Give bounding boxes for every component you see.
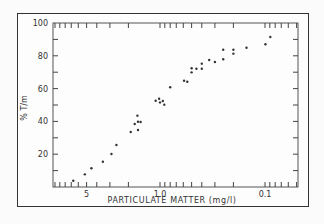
- data-point: [201, 68, 203, 70]
- data-point: [110, 153, 112, 155]
- data-point: [245, 47, 247, 49]
- y-axis-label: % T/m: [20, 95, 29, 121]
- data-point: [137, 121, 139, 123]
- data-point: [186, 81, 188, 83]
- data-point: [169, 86, 171, 88]
- data-point: [136, 114, 138, 116]
- data-point: [208, 59, 210, 61]
- data-point: [159, 101, 161, 103]
- data-point: [154, 100, 156, 102]
- data-point: [190, 71, 192, 73]
- data-point: [158, 98, 160, 100]
- y-tick-label: 20: [38, 150, 48, 159]
- data-point: [264, 43, 266, 45]
- plot-area: [53, 23, 298, 187]
- y-tick-label: 40: [38, 117, 48, 126]
- data-point: [232, 52, 234, 54]
- data-point: [195, 68, 197, 70]
- data-point: [222, 58, 224, 60]
- y-tick-label: 80: [38, 52, 48, 61]
- data-point: [269, 36, 271, 38]
- y-tick-label: 60: [38, 85, 48, 94]
- data-point: [130, 131, 132, 133]
- data-point: [90, 167, 92, 169]
- data-points: [72, 36, 271, 182]
- data-point: [72, 180, 74, 182]
- data-point: [84, 173, 86, 175]
- data-point: [139, 121, 141, 123]
- data-point: [190, 67, 192, 69]
- data-point: [183, 80, 185, 82]
- data-point: [163, 103, 165, 105]
- data-point: [102, 161, 104, 163]
- x-tick-label: 0.1: [259, 190, 272, 199]
- x-tick-label: 5: [84, 190, 89, 199]
- x-axis-label: PARTICULATE MATTER (mg/l): [108, 196, 237, 205]
- data-point: [232, 49, 234, 51]
- data-point: [201, 62, 203, 64]
- data-point: [222, 49, 224, 51]
- data-point: [162, 100, 164, 102]
- y-tick-label: 100: [33, 19, 48, 28]
- scatter-chart: 20406080100 51.00.1 % T/m PARTICULATE MA…: [0, 0, 324, 224]
- data-point: [134, 123, 136, 125]
- data-point: [137, 129, 139, 131]
- data-point: [214, 61, 216, 63]
- x-axis: 51.00.1: [55, 23, 297, 199]
- y-axis: 20406080100: [33, 19, 298, 171]
- data-point: [115, 144, 117, 146]
